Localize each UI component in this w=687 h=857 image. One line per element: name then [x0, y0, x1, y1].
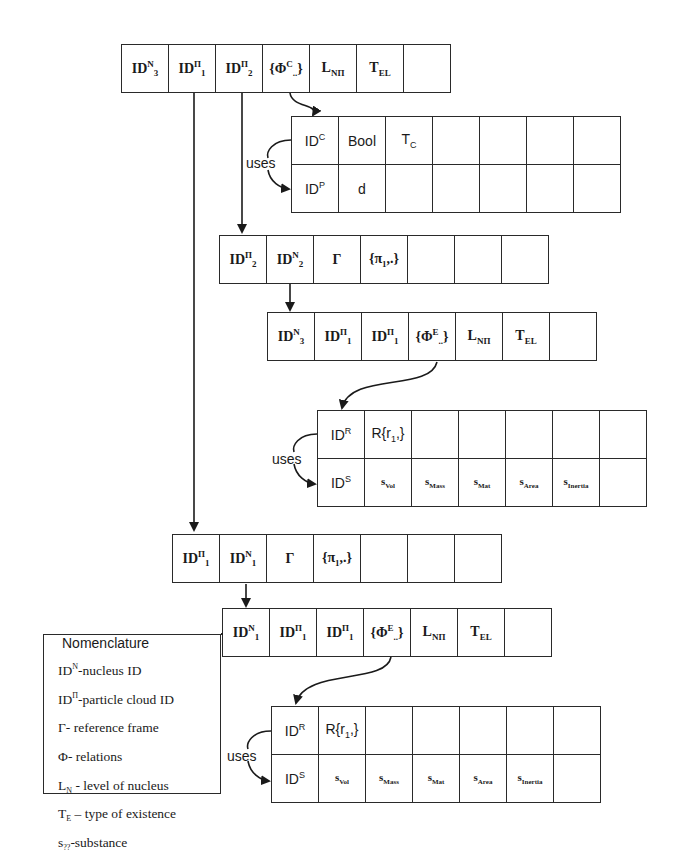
cell-id-s: IDS	[272, 755, 319, 803]
cell-r-set: R{r1,}	[319, 707, 366, 755]
cell-empty	[386, 165, 433, 213]
cell-empty	[506, 411, 553, 459]
cell-d: d	[339, 165, 386, 213]
legend-item: LN - level of nucleus	[58, 772, 220, 801]
cell-s-inertia: sInertia	[553, 459, 600, 507]
relation-record-mid: IDR R{r1,} IDS sVol sMass sMat sArea sIn…	[317, 410, 647, 507]
cell-id-n2: IDN2	[267, 236, 314, 284]
cell-phi-c: {ΦC..}	[263, 45, 310, 93]
cell-level: LNΠ	[411, 609, 458, 657]
cell-empty	[600, 411, 647, 459]
arrow-phiE-to-relation	[342, 362, 437, 408]
particle-cloud-record-1: IDΠ1 IDN1 Γ {π1,.}	[172, 534, 502, 583]
legend-item: s??-substance	[58, 829, 220, 857]
cell-empty	[553, 411, 600, 459]
cell-empty	[480, 117, 527, 165]
cell-empty	[527, 117, 574, 165]
cell-empty	[554, 755, 601, 803]
nucleus-record-bottom: IDN1 IDΠ1 IDΠ1 {ΦE..} LNΠ TEL	[222, 608, 552, 657]
uses-label: uses	[227, 748, 257, 764]
cell-phi-e: {ΦE..}	[364, 609, 411, 657]
legend-item: TE – type of existence	[58, 800, 220, 829]
uses-arc-top	[248, 731, 271, 749]
cell-empty	[455, 535, 502, 583]
cell-phi-e: {ΦE..}	[409, 313, 456, 361]
cell-type: TEL	[458, 609, 505, 657]
cell-s-mat: sMat	[413, 755, 460, 803]
cell-empty	[527, 165, 574, 213]
uses-label: uses	[246, 155, 276, 171]
cell-id-pi1: IDΠ1	[362, 313, 409, 361]
cell-id-p: IDP	[292, 165, 339, 213]
cell-id-c: IDC	[292, 117, 339, 165]
legend-item: IDN-nucleus ID	[58, 657, 220, 686]
cell-empty	[408, 236, 455, 284]
cell-empty	[361, 535, 408, 583]
uses-arc-bottom	[268, 170, 289, 189]
cell-empty	[459, 411, 506, 459]
cell-s-vol: sVol	[319, 755, 366, 803]
cell-id-pi1: IDΠ1	[315, 313, 362, 361]
cell-empty	[404, 45, 451, 93]
cell-id-pi1: IDΠ1	[270, 609, 317, 657]
cell-s-mat: sMat	[459, 459, 506, 507]
cell-level: LNΠ	[456, 313, 503, 361]
cell-type: TEL	[357, 45, 404, 93]
cell-id-pi1: IDΠ1	[173, 535, 220, 583]
arrow-phiC-to-condition	[290, 93, 314, 115]
cell-empty	[574, 165, 621, 213]
particle-cloud-record-2: IDΠ2 IDN2 Γ {π1,.}	[219, 235, 549, 284]
cell-level: LNΠ	[310, 45, 357, 93]
cell-empty	[502, 236, 549, 284]
uses-label: uses	[272, 451, 302, 467]
cell-empty	[480, 165, 527, 213]
cell-id-pi2: IDΠ2	[220, 236, 267, 284]
cell-empty	[574, 117, 621, 165]
cell-r-set: R{r1,}	[365, 411, 412, 459]
cell-id-r: IDR	[318, 411, 365, 459]
cell-empty	[505, 609, 552, 657]
cell-id-n3: IDN3	[122, 45, 169, 93]
cell-id-pi2: IDΠ2	[216, 45, 263, 93]
cell-s-inertia: sInertia	[507, 755, 554, 803]
cell-empty	[366, 707, 413, 755]
legend-item: Γ- reference frame	[58, 714, 220, 743]
nucleus-record-top: IDN3 IDΠ1 IDΠ2 {ΦC..} LNΠ TEL	[121, 44, 451, 93]
cell-empty	[507, 707, 554, 755]
cell-s-vol: sVol	[365, 459, 412, 507]
cell-empty	[433, 117, 480, 165]
cell-s-area: sArea	[506, 459, 553, 507]
cell-tc: TC	[386, 117, 433, 165]
nomenclature-title: Nomenclature	[62, 635, 220, 651]
cell-empty	[460, 707, 507, 755]
cell-empty	[554, 707, 601, 755]
cell-pi-set: {π1,.}	[361, 236, 408, 284]
condition-record-top: IDC Bool TC IDP d	[291, 116, 621, 213]
nomenclature-legend: Nomenclature IDN-nucleus ID IDΠ-particle…	[43, 634, 221, 794]
cell-id-n1: IDN1	[223, 609, 270, 657]
nomenclature-list: IDN-nucleus ID IDΠ-particle cloud ID Γ- …	[44, 657, 220, 857]
nucleus-record-mid: IDN3 IDΠ1 IDΠ1 {ΦE..} LNΠ TEL	[267, 312, 597, 361]
cell-type: TEL	[503, 313, 550, 361]
cell-id-pi1: IDΠ1	[169, 45, 216, 93]
cell-empty	[413, 707, 460, 755]
uses-arc-top	[294, 434, 317, 452]
cell-s-mass: sMass	[412, 459, 459, 507]
cell-id-n1: IDN1	[220, 535, 267, 583]
cell-empty	[408, 535, 455, 583]
uses-arc-bottom	[294, 464, 315, 484]
cell-empty	[412, 411, 459, 459]
cell-id-s: IDS	[318, 459, 365, 507]
cell-bool: Bool	[339, 117, 386, 165]
cell-s-mass: sMass	[366, 755, 413, 803]
cell-gamma: Γ	[314, 236, 361, 284]
uses-arc-bottom	[248, 761, 269, 781]
legend-item: Φ- relations	[58, 743, 220, 772]
relation-record-bottom: IDR R{r1,} IDS sVol sMass sMat sArea sIn…	[271, 706, 601, 803]
cell-empty	[433, 165, 480, 213]
cell-pi-set: {π1,.}	[314, 535, 361, 583]
cell-gamma: Γ	[267, 535, 314, 583]
cell-empty	[455, 236, 502, 284]
cell-id-pi1: IDΠ1	[317, 609, 364, 657]
legend-item: IDΠ-particle cloud ID	[58, 686, 220, 715]
